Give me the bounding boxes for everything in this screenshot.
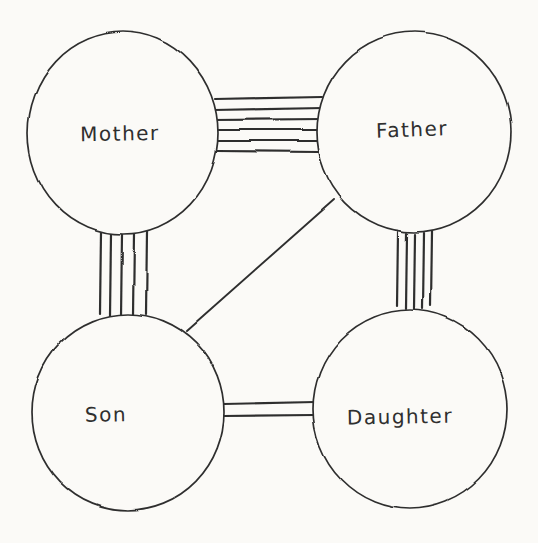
edge-line-father-daughter (431, 231, 432, 306)
node-label-mother: Mother (80, 121, 160, 146)
edge-line-mother-father (217, 151, 319, 152)
edge-line-mother-son (146, 231, 147, 314)
edge-line-son-daughter (224, 402, 315, 404)
edge-line-mother-son (121, 234, 122, 317)
edge-son-daughter (224, 402, 315, 416)
node-label-son: Son (85, 402, 128, 427)
edge-line-mother-father (214, 108, 323, 110)
edge-father-son (186, 200, 334, 331)
node-label-daughter: Daughter (347, 404, 453, 430)
edge-line-father-daughter (423, 233, 424, 309)
edge-line-son-daughter (224, 415, 314, 416)
edge-line-mother-son (133, 233, 134, 316)
edge-line-father-daughter (397, 232, 398, 306)
family-graph-diagram: MotherFatherSonDaughter (0, 0, 538, 543)
node-label-father: Father (376, 116, 449, 142)
sketch-page: MotherFatherSonDaughter (0, 0, 538, 543)
edge-line-mother-son (100, 231, 101, 313)
edge-mother-father (213, 97, 323, 152)
edge-line-mother-father (213, 119, 322, 120)
edge-line-father-daughter (414, 234, 415, 310)
edge-father-daughter (397, 231, 432, 310)
edge-mother-son (100, 231, 147, 317)
node-circle-son (32, 314, 224, 510)
edge-line-father-daughter (406, 233, 407, 309)
edge-line-mother-son (110, 233, 111, 316)
edge-line-father-son (186, 200, 334, 331)
edge-line-mother-father (215, 97, 322, 99)
